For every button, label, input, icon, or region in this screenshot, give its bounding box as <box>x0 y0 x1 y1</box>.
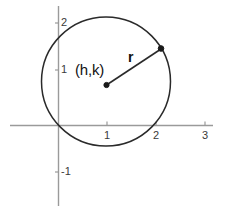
y-tick-label-2: 2 <box>61 17 67 28</box>
circle-shape <box>42 17 171 146</box>
center-label: (h,k) <box>75 62 104 77</box>
x-tick-label-3: 3 <box>202 130 208 141</box>
circle-diagram-figure: 1 2 3 2 1 -1 (h,k) r <box>0 0 225 216</box>
circle-edge-point <box>158 46 164 52</box>
x-tick-label-2: 2 <box>153 130 159 141</box>
y-tick-label-minus-1: -1 <box>61 166 71 177</box>
radius-label: r <box>128 50 133 64</box>
radius-segment <box>107 49 162 85</box>
y-tick-label-1: 1 <box>61 64 67 75</box>
x-tick-label-1: 1 <box>104 130 110 141</box>
center-point <box>104 82 109 87</box>
coordinate-plane-svg <box>0 0 225 216</box>
